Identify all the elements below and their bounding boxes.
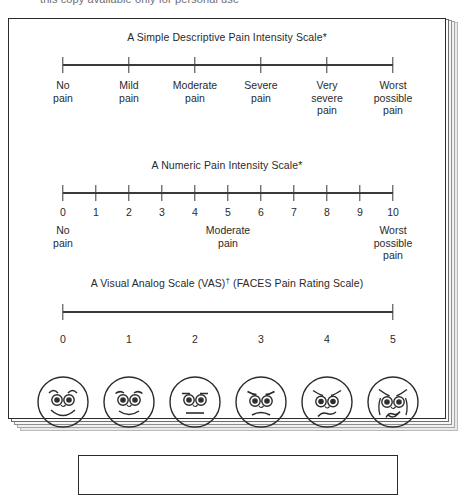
face-1-slight-smile[interactable]: [101, 374, 157, 430]
numeric-label-7: 7: [291, 206, 297, 218]
vas-tick-end: [392, 304, 393, 320]
vas-faces-title: A Visual Analog Scale (VAS)† (FACES Pain…: [9, 277, 445, 289]
numeric-scale: 0 1 2 3 4 5 6 7 8 9 10 Nopain Moderatepa…: [63, 185, 393, 268]
face-2-neutral[interactable]: [167, 374, 223, 430]
numeric-label-0: 0: [60, 206, 66, 218]
descriptor-mild-pain: Mildpain: [119, 79, 139, 104]
numeric-label-2: 2: [126, 206, 132, 218]
descriptor-very-severe-pain: Veryseverepain: [311, 79, 343, 117]
numeric-tick-7: [293, 185, 294, 201]
simple-descriptive-title: A Simple Descriptive Pain Intensity Scal…: [9, 31, 445, 43]
descriptor-moderate-pain: Moderatepain: [173, 79, 217, 104]
numeric-label-10: 10: [387, 206, 399, 218]
numeric-tick-6: [260, 185, 261, 201]
axis-line: [63, 311, 393, 313]
clipped-header-label: this copy available only for personal us…: [40, 0, 440, 5]
numeric-tick-0: [62, 185, 63, 201]
numeric-anchor-worst-possible-pain: Worstpossiblepain: [374, 224, 413, 262]
numeric-label-1: 1: [93, 206, 99, 218]
face-4-frown[interactable]: [299, 374, 355, 430]
numeric-scale-title-text: A Numeric Pain Intensity Scale*: [152, 159, 303, 171]
face-label-4: 4: [324, 333, 330, 345]
numeric-tick-9: [359, 185, 360, 201]
vas-tick-start: [62, 304, 63, 320]
faces-rating-row: [63, 374, 393, 434]
clipped-header-text: this copy available only for personal us…: [40, 0, 440, 7]
numeric-anchor-moderate-pain: Moderatepain: [206, 224, 250, 249]
axis-tick-2: [194, 57, 195, 73]
numeric-scale-title: A Numeric Pain Intensity Scale*: [9, 159, 445, 171]
simple-descriptive-scale: Nopain Mildpain Moderatepain Severepain …: [63, 57, 393, 123]
simple-descriptive-title-text: A Simple Descriptive Pain Intensity Scal…: [127, 31, 327, 43]
face-5-crying[interactable]: [365, 374, 421, 430]
simple-descriptive-axis: [63, 57, 393, 73]
face-label-3: 3: [258, 333, 264, 345]
secondary-card: [78, 455, 398, 495]
numeric-anchor-labels: Nopain Moderatepain Worstpossiblepain: [63, 224, 393, 268]
numeric-tick-3: [161, 185, 162, 201]
face-label-5: 5: [390, 333, 396, 345]
numeric-label-5: 5: [225, 206, 231, 218]
faces-number-labels: 0 1 2 3 4 5: [63, 333, 393, 347]
pain-scale-card: A Simple Descriptive Pain Intensity Scal…: [8, 18, 446, 419]
numeric-tick-2: [128, 185, 129, 201]
numeric-label-8: 8: [324, 206, 330, 218]
axis-tick-0: [62, 57, 63, 73]
face-3-slight-frown[interactable]: [233, 374, 289, 430]
axis-tick-1: [128, 57, 129, 73]
vas-scale: 0 1 2 3 4 5: [63, 304, 393, 347]
face-label-2: 2: [192, 333, 198, 345]
vas-title-suffix: (FACES Pain Rating Scale): [230, 277, 363, 289]
simple-descriptive-labels: Nopain Mildpain Moderatepain Severepain …: [63, 79, 393, 123]
axis-tick-4: [326, 57, 327, 73]
numeric-label-9: 9: [357, 206, 363, 218]
numeric-tick-8: [326, 185, 327, 201]
vas-axis: [63, 304, 393, 320]
descriptor-worst-possible-pain: Worstpossiblepain: [374, 79, 413, 117]
numeric-label-6: 6: [258, 206, 264, 218]
vas-title-text: A Visual Analog Scale (VAS): [91, 277, 226, 289]
numeric-tick-5: [227, 185, 228, 201]
axis-line: [63, 64, 393, 66]
descriptor-severe-pain: Severepain: [244, 79, 277, 104]
numeric-label-3: 3: [159, 206, 165, 218]
face-0-broad-smile[interactable]: [35, 374, 91, 430]
face-label-0: 0: [60, 333, 66, 345]
numeric-tick-1: [95, 185, 96, 201]
numeric-axis: [63, 185, 393, 201]
descriptor-no-pain: Nopain: [53, 79, 73, 104]
face-label-1: 1: [126, 333, 132, 345]
axis-tick-3: [260, 57, 261, 73]
numeric-tick-10: [392, 185, 393, 201]
numeric-anchor-no-pain: Nopain: [53, 224, 73, 249]
axis-tick-5: [392, 57, 393, 73]
numeric-tick-4: [194, 185, 195, 201]
numeric-label-4: 4: [192, 206, 198, 218]
numeric-tick-labels: 0 1 2 3 4 5 6 7 8 9 10: [63, 206, 393, 220]
